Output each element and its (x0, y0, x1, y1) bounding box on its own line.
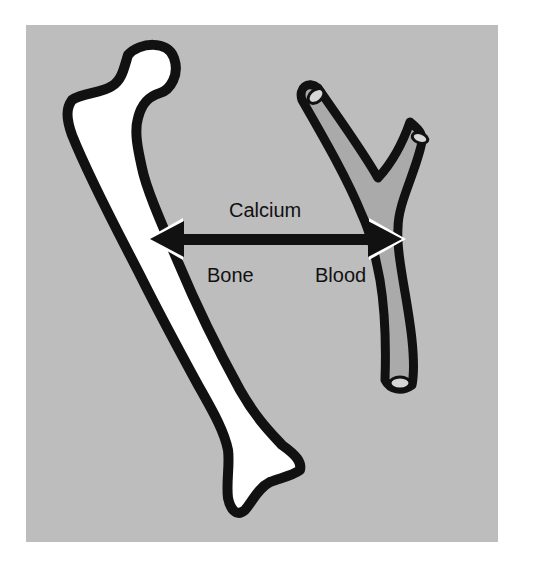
diagram-canvas (0, 0, 550, 579)
calcium-label: Calcium (229, 200, 301, 220)
femur-bone-icon (68, 45, 301, 513)
bone-label: Bone (207, 265, 254, 285)
blood-label: Blood (315, 265, 366, 285)
